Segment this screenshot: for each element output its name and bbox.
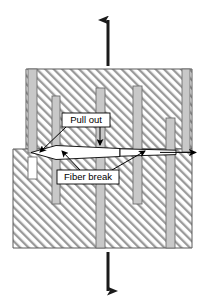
fiber-1 [28,69,37,153]
fiber-1-pullout-stub [28,157,37,179]
label-pull-out: Pull out [62,113,110,127]
fiber-6 [182,69,190,152]
pull-out-label-text: Pull out [70,114,102,125]
fiber-4 [133,86,142,204]
label-fiber-break: Fiber break [57,170,119,184]
diagram-canvas: Pull out Fiber break [0,0,217,302]
fiber-5 [166,118,175,248]
composite-fracture-figure: Pull out Fiber break [0,0,217,302]
fiber-break-label-text: Fiber break [64,171,112,182]
fiber-3 [96,88,105,248]
